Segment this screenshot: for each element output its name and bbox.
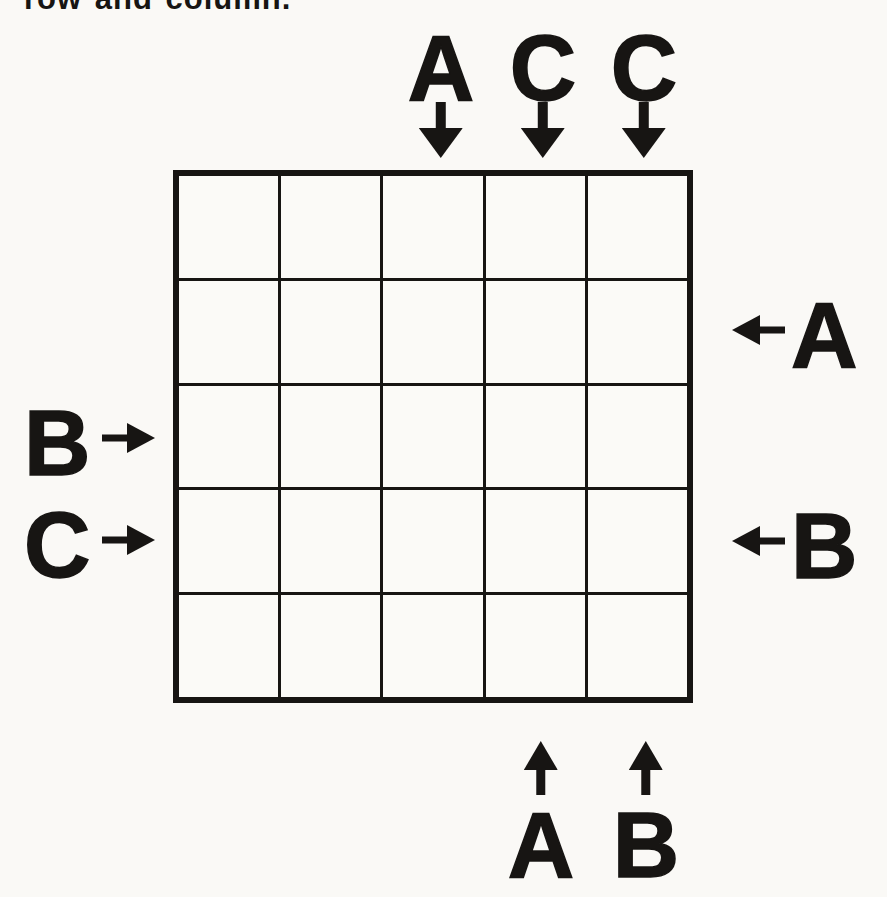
arrow-left-icon: [732, 315, 785, 345]
grid-cell[interactable]: [383, 386, 482, 488]
grid-cell[interactable]: [179, 176, 278, 278]
grid-cell[interactable]: [383, 176, 482, 278]
arrow-right-icon: [102, 525, 155, 555]
grid-cell[interactable]: [588, 176, 687, 278]
arrow-up-icon: [524, 741, 558, 795]
grid-cell[interactable]: [486, 386, 585, 488]
clue-letter: C: [24, 499, 90, 591]
grid-cell[interactable]: [486, 595, 585, 697]
clue-top-col3: A: [408, 22, 474, 158]
clue-letter: A: [408, 22, 474, 114]
puzzle-grid: [173, 170, 693, 703]
grid-cell[interactable]: [383, 490, 482, 592]
clue-bottom-col5: B: [613, 741, 679, 891]
grid-cell[interactable]: [281, 490, 380, 592]
clue-letter: A: [791, 289, 857, 381]
grid-cell[interactable]: [486, 176, 585, 278]
arrow-down-icon: [521, 102, 565, 158]
clipped-instruction-text: row and column.: [24, 0, 291, 14]
arrow-left-icon: [732, 526, 785, 556]
grid-cell[interactable]: [281, 176, 380, 278]
arrow-right-icon: [102, 423, 155, 453]
grid-cell[interactable]: [486, 281, 585, 383]
grid-cell[interactable]: [179, 595, 278, 697]
clue-right-row4: B: [732, 495, 857, 587]
clue-letter: B: [791, 500, 857, 592]
grid-cell[interactable]: [383, 595, 482, 697]
clue-letter: A: [508, 799, 574, 891]
grid-cell[interactable]: [588, 490, 687, 592]
clue-left-row4: C: [24, 494, 155, 586]
grid-cell[interactable]: [179, 281, 278, 383]
grid-cell[interactable]: [588, 595, 687, 697]
grid-cell[interactable]: [281, 595, 380, 697]
grid-cell[interactable]: [588, 281, 687, 383]
clue-top-col4: C: [510, 22, 576, 158]
grid-cell[interactable]: [383, 281, 482, 383]
grid-cell[interactable]: [281, 281, 380, 383]
puzzle-page: row and column. A C C A B B: [0, 0, 887, 897]
arrow-down-icon: [622, 102, 666, 158]
grid-cell[interactable]: [179, 490, 278, 592]
clue-letter: C: [611, 22, 677, 114]
clue-letter: B: [613, 799, 679, 891]
arrow-down-icon: [419, 102, 463, 158]
clue-right-row2: A: [732, 284, 857, 376]
grid-cell[interactable]: [281, 386, 380, 488]
clue-letter: B: [24, 397, 90, 489]
clue-left-row3: B: [24, 392, 155, 484]
grid-cell[interactable]: [588, 386, 687, 488]
grid-cell[interactable]: [486, 490, 585, 592]
grid-cell[interactable]: [179, 386, 278, 488]
arrow-up-icon: [629, 741, 663, 795]
clue-letter: C: [510, 22, 576, 114]
clue-top-col5: C: [611, 22, 677, 158]
clue-bottom-col4: A: [508, 741, 574, 891]
